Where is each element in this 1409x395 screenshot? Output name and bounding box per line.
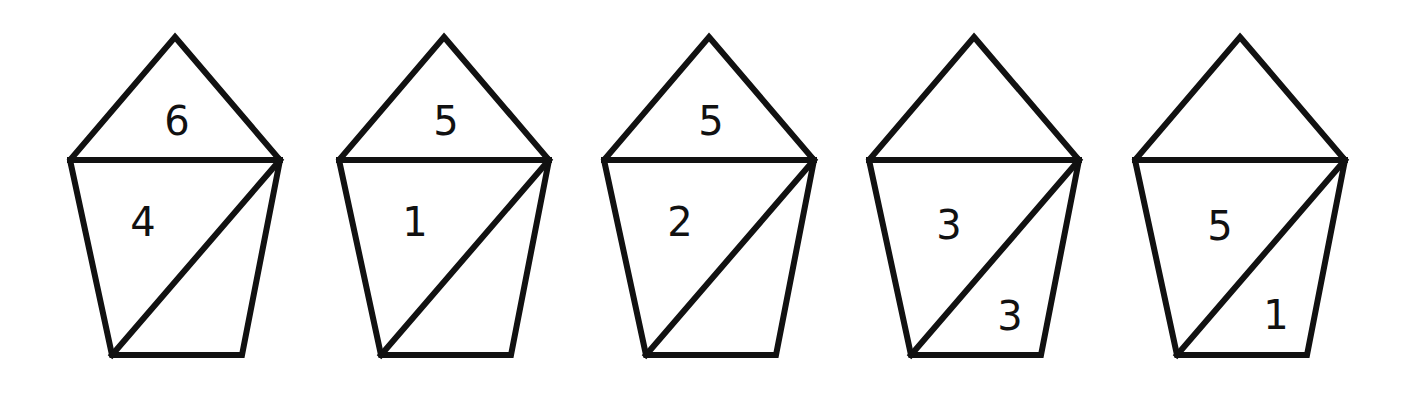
diagonal-divider	[112, 160, 280, 355]
top-region-label: 5	[698, 98, 723, 144]
left-region-label: 2	[667, 199, 692, 245]
top-region-label: 5	[433, 98, 458, 144]
pentagon-1: 6 4	[70, 37, 280, 355]
pentagon-2: 5 1	[339, 37, 549, 355]
top-region-label: 6	[164, 98, 189, 144]
pentagon-3: 5 2	[604, 37, 814, 355]
diagonal-divider	[646, 160, 814, 355]
diagonal-divider	[381, 160, 549, 355]
right-region-label: 1	[1263, 292, 1288, 338]
left-region-label: 1	[402, 199, 427, 245]
pentagon-puzzle-diagram: 6 4 5 1 5 2 3 3 5 1	[0, 0, 1409, 395]
pentagon-4: 3 3	[869, 37, 1079, 355]
diagonal-divider	[1177, 160, 1345, 355]
diagonal-divider	[911, 160, 1079, 355]
pentagon-5: 5 1	[1135, 37, 1345, 355]
right-region-label: 3	[997, 293, 1022, 339]
left-region-label: 3	[936, 202, 961, 248]
left-region-label: 4	[130, 199, 155, 245]
left-region-label: 5	[1207, 203, 1232, 249]
